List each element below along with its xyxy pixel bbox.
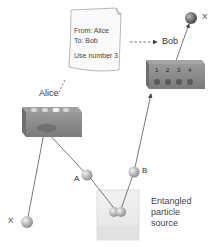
bob-slot-3: 3 [177,67,180,73]
alice-measurement-box [22,107,82,137]
particle-b [129,167,140,178]
entangled-pair-right [116,207,126,217]
bob-slot-1: 1 [155,67,158,73]
source-line-2: particle [151,207,192,218]
note-to: To: Bob [74,37,98,44]
source-line-1: Entangled [151,196,192,207]
alice-label: Alice [39,89,59,98]
particle-a-label: A [74,175,79,183]
bob-measurement-box [146,60,205,89]
particle-x-input-label: X [8,217,13,225]
entangled-source-label: Entangled particle source [151,196,192,229]
note-from: From: Alice [74,27,109,34]
bob-slot-2: 2 [166,67,169,73]
note-message: Use number 3 [74,52,118,59]
particle-x-input [21,216,33,228]
source-line-3: source [151,218,192,229]
particle-x-output [185,12,197,24]
bob-label: Bob [162,37,178,46]
particle-a [82,170,93,181]
teleportation-diagram: From: Alice To: Bob Use number 3 Bob Ali… [0,0,217,247]
particle-x-output-label: X [202,13,207,21]
bob-slot-4: 4 [188,67,191,73]
particle-b-label: B [142,167,147,175]
